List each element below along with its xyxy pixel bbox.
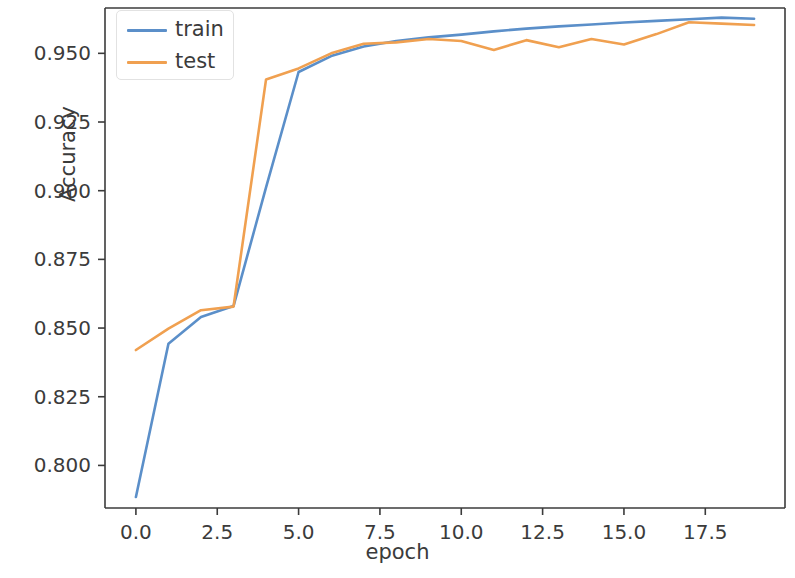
legend-box: train test [116,10,234,80]
y-axis-label: Accuracy [56,34,80,274]
axes-spines [105,8,785,508]
y-tick-label: 0.825 [0,385,91,409]
data-series [136,18,754,497]
matplotlib-figure: 0.8000.8250.8500.8750.9000.9250.950 0.02… [0,0,795,578]
x-axis-label: epoch [0,540,795,564]
y-axis-label-wrap: Accuracy [8,142,32,382]
legend-label-test: test [175,49,215,73]
plot-canvas [0,0,795,578]
legend-label-train: train [175,17,224,41]
axis-ticks [98,53,705,515]
legend-entry-train: train [117,13,235,48]
y-tick-label: 0.800 [0,453,91,477]
legend-swatch-test [127,61,167,64]
legend-swatch-train [127,29,167,32]
series-line-train [136,18,754,497]
legend-entry-test: test [117,45,235,80]
